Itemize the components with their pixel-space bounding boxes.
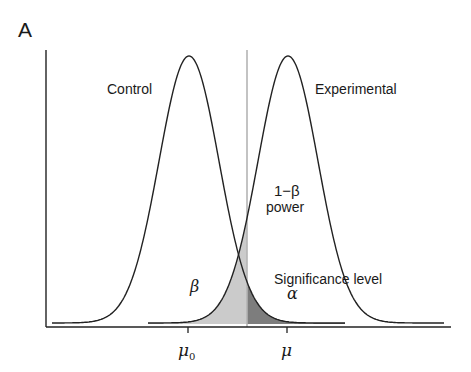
- power-label-line2: power: [266, 199, 304, 215]
- control-label: Control: [107, 81, 152, 97]
- panel-label: A: [18, 18, 32, 41]
- beta-label: β: [189, 277, 199, 296]
- power-label-line1: 1−β: [274, 182, 300, 199]
- alpha-label: α: [287, 284, 298, 303]
- experimental-label: Experimental: [315, 81, 397, 97]
- mu-tick-label: μ: [281, 340, 292, 360]
- power-diagram: A Control Experimental 1−β power β Signi…: [0, 0, 471, 372]
- mu0-tick-label: μ0: [178, 340, 195, 362]
